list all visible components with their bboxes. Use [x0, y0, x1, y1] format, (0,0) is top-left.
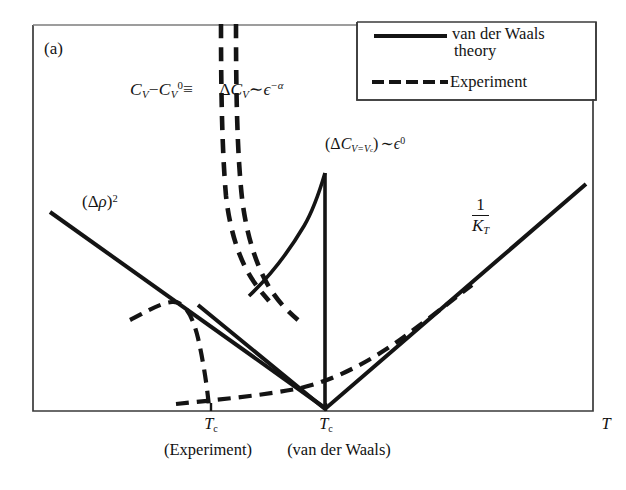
delta-rho-squared-label: (Δρ)2: [82, 193, 118, 211]
x-tick-caption-vdw: (van der Waals): [287, 440, 391, 460]
inverse-kt-denominator: KT: [472, 216, 489, 236]
x-tick-label-tc-vdw: Tc: [319, 414, 333, 434]
x-tick-label-tc-experiment: Tc: [204, 414, 218, 434]
cv-definition-lhs: CV−CV0≡: [130, 79, 193, 99]
x-axis-tick-marks: [211, 403, 326, 411]
legend-label-experiment: Experiment: [450, 74, 527, 91]
inverse-kt-fraction: 1 KT: [472, 196, 489, 236]
inverse-kt-numerator: 1: [472, 196, 489, 216]
figure-canvas: [0, 0, 626, 490]
cv-definition-rhs: ΔCV∼ϵ−α: [219, 79, 283, 99]
cv-jump-label: (ΔCV=Vc)∼ϵ0: [325, 136, 405, 155]
legend-label-vdw: van der Waals theory: [452, 26, 545, 60]
cv-definition-label: CV−CV0≡ΔCV∼ϵ−α: [130, 80, 284, 101]
x-tick-caption-experiment: (Experiment): [164, 440, 252, 460]
panel-tag: (a): [44, 40, 63, 58]
x-axis-label: T: [601, 414, 610, 434]
figure-panel-a: (a) CV−CV0≡ΔCV∼ϵ−α (Δρ)2 (ΔCV=Vc)∼ϵ0 1 K…: [0, 0, 626, 490]
inverse-kt-label: 1 KT: [472, 196, 489, 236]
curve-cv-vdw: [249, 173, 325, 409]
legend-label-vdw-line2: theory: [454, 43, 545, 60]
curve-inverse-kt-vdw: [198, 184, 586, 409]
curve-cv-experiment-left: [221, 24, 269, 301]
